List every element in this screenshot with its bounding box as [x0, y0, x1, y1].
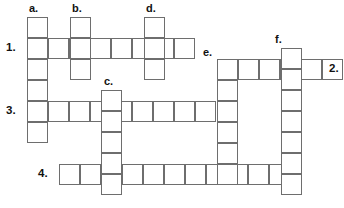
crossword-cell[interactable]: [27, 101, 48, 122]
crossword-cell[interactable]: [217, 80, 238, 101]
crossword-cell[interactable]: [174, 38, 195, 59]
crossword-cell[interactable]: [101, 153, 122, 174]
crossword-cell[interactable]: [217, 59, 238, 80]
down-clue-label-a: a.: [29, 3, 38, 14]
crossword-cell[interactable]: [153, 101, 174, 122]
crossword-cell[interactable]: [144, 38, 165, 59]
crossword-cell[interactable]: [27, 80, 48, 101]
down-clue-label-d: d.: [146, 3, 156, 14]
crossword-cell[interactable]: [70, 59, 91, 80]
crossword-cell[interactable]: [144, 17, 165, 38]
crossword-cell[interactable]: [217, 101, 238, 122]
crossword-cell[interactable]: [281, 132, 302, 153]
down-clue-label-e: e.: [203, 47, 212, 58]
crossword-cell[interactable]: [217, 164, 238, 185]
crossword-cell[interactable]: [164, 164, 185, 185]
crossword-cell[interactable]: [101, 174, 122, 195]
across-clue-label-1: 1.: [6, 42, 16, 53]
down-clue-label-f: f.: [275, 34, 282, 45]
across-clue-label-4: 4.: [38, 168, 48, 179]
crossword-cell[interactable]: [69, 101, 90, 122]
crossword-cell[interactable]: [281, 153, 302, 174]
crossword-cell[interactable]: [27, 17, 48, 38]
crossword-cell[interactable]: [281, 111, 302, 132]
across-clue-label-3: 3.: [6, 105, 16, 116]
crossword-cell[interactable]: [248, 164, 269, 185]
crossword-cell[interactable]: [70, 17, 91, 38]
crossword-cell[interactable]: [185, 164, 206, 185]
crossword-cell[interactable]: [101, 132, 122, 153]
crossword-cell[interactable]: [101, 111, 122, 132]
crossword-cell[interactable]: [70, 38, 91, 59]
crossword-cell[interactable]: [301, 59, 322, 80]
crossword-cell[interactable]: [111, 38, 132, 59]
crossword-cell[interactable]: [281, 174, 302, 195]
crossword-cell[interactable]: [217, 143, 238, 164]
crossword-cell[interactable]: [217, 122, 238, 143]
crossword-cell[interactable]: [90, 38, 111, 59]
crossword-cell[interactable]: [48, 38, 69, 59]
crossword-cell[interactable]: [144, 59, 165, 80]
crossword-cell[interactable]: [122, 164, 143, 185]
crossword-puzzle: 1.3.4.2.a.b.c.d.e.f.: [0, 0, 344, 208]
crossword-cell[interactable]: [281, 90, 302, 111]
crossword-cell[interactable]: [27, 122, 48, 143]
crossword-cell[interactable]: [101, 90, 122, 111]
crossword-cell[interactable]: [59, 164, 80, 185]
across-clue-label-2: 2.: [329, 63, 339, 74]
crossword-cell[interactable]: [132, 101, 153, 122]
crossword-cell[interactable]: [27, 59, 48, 80]
crossword-cell[interactable]: [281, 48, 302, 69]
crossword-cell[interactable]: [195, 101, 216, 122]
crossword-cell[interactable]: [259, 59, 280, 80]
crossword-cell[interactable]: [48, 101, 69, 122]
crossword-cell[interactable]: [27, 38, 48, 59]
crossword-cell[interactable]: [281, 69, 302, 90]
crossword-cell[interactable]: [143, 164, 164, 185]
crossword-cell[interactable]: [174, 101, 195, 122]
down-clue-label-c: c.: [104, 76, 113, 87]
crossword-cell[interactable]: [80, 164, 101, 185]
crossword-cell[interactable]: [238, 59, 259, 80]
down-clue-label-b: b.: [72, 3, 82, 14]
